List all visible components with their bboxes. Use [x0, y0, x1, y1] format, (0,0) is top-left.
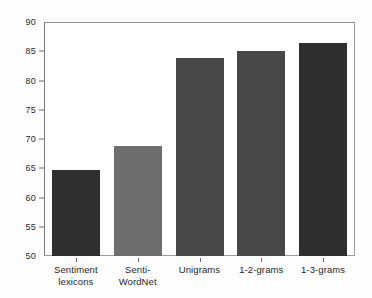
x-axis-tick-label: Senti- WordNet: [107, 264, 169, 288]
y-axis-tick-mark: [39, 80, 44, 81]
y-axis-tick-label: 70: [26, 134, 36, 144]
y-axis-tick-label: 55: [26, 222, 36, 232]
bar-series: [45, 22, 354, 256]
y-axis-tick-label: 50: [26, 251, 36, 261]
y-axis-tick-mark: [39, 168, 44, 169]
y-axis-tick-label: 85: [26, 46, 36, 56]
y-axis-tick-label: 90: [26, 17, 36, 27]
x-axis-tick-label: 1-2-grams: [230, 264, 292, 276]
x-axis-tick-mark: [261, 258, 262, 262]
x-axis-tick-mark: [76, 258, 77, 262]
bar: [52, 170, 100, 256]
y-axis-tick-mark: [39, 109, 44, 110]
bar: [114, 146, 162, 256]
y-axis-tick-label: 80: [26, 76, 36, 86]
x-axis: Sentiment lexiconsSenti- WordNetUnigrams…: [45, 258, 354, 298]
y-axis-tick-label: 60: [26, 193, 36, 203]
x-axis-tick-mark: [200, 258, 201, 262]
x-axis-tick-label: Unigrams: [169, 264, 231, 276]
y-axis-tick-mark: [39, 139, 44, 140]
x-axis-tick-mark: [138, 258, 139, 262]
y-axis: 505560657075808590: [0, 0, 44, 298]
y-axis-tick-mark: [39, 51, 44, 52]
x-axis-tick-label: 1-3-grams: [292, 264, 354, 276]
y-axis-tick-label: 65: [26, 163, 36, 173]
bar: [237, 51, 285, 256]
bar: [299, 43, 347, 256]
bar: [176, 58, 224, 256]
x-axis-tick-mark: [323, 258, 324, 262]
x-axis-tick-label: Sentiment lexicons: [45, 264, 107, 288]
bar-chart-figure: 505560657075808590 Sentiment lexiconsSen…: [0, 0, 372, 298]
y-axis-tick-mark: [39, 197, 44, 198]
y-axis-tick-label: 75: [26, 105, 36, 115]
y-axis-tick-mark: [39, 226, 44, 227]
